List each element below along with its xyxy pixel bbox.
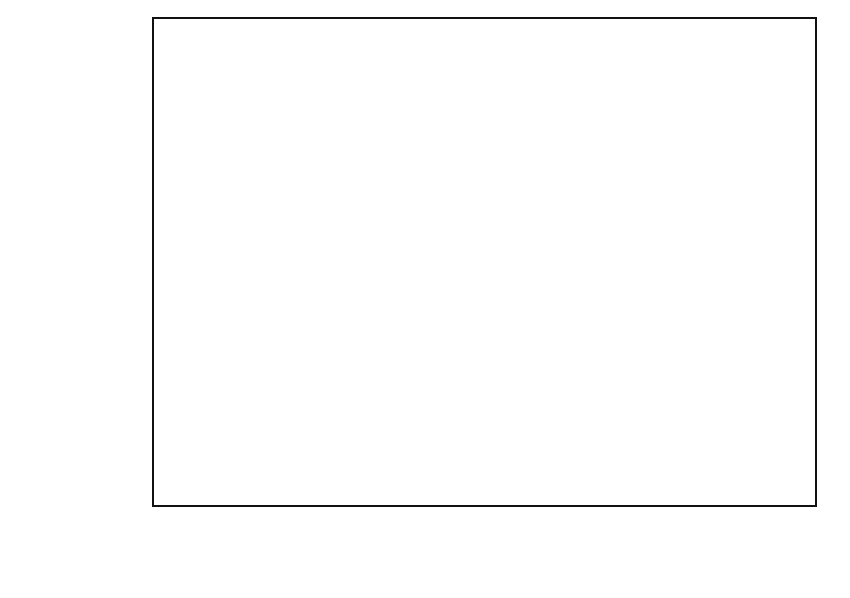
- normal-probability-plot-figure: [0, 0, 850, 598]
- plot-area-frame: [152, 17, 817, 507]
- x-axis-tick-labels: [0, 520, 850, 550]
- data-layer: [154, 19, 815, 505]
- y-axis-tick-labels: [0, 0, 140, 598]
- plot-area-inner: [154, 19, 815, 505]
